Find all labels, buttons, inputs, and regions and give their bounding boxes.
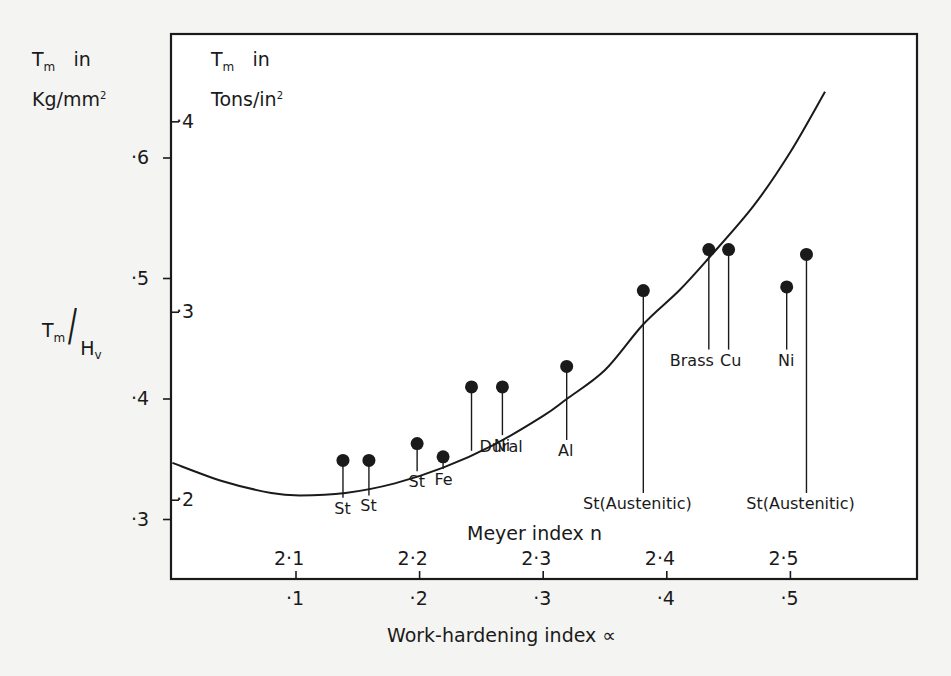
unit-tons: Tons/in [211, 88, 277, 110]
data-point [411, 437, 424, 450]
in-word: in [73, 48, 90, 70]
point-label: St [409, 474, 425, 490]
data-point [496, 380, 509, 393]
ratio-denominator-sub: v [94, 348, 101, 362]
ratio-numerator-sub: m [54, 331, 66, 345]
point-label: St [334, 501, 350, 517]
point-label: Al [558, 443, 573, 459]
y-tick-label-kg: ·4 [131, 389, 149, 408]
data-point [722, 243, 735, 256]
point-label: Ni [494, 438, 510, 454]
ratio-label: Tm/Hv [42, 300, 102, 344]
left-axis-title: Tm in [32, 50, 91, 69]
y-tick-label-tons: ·4 [176, 112, 194, 131]
point-label: St [360, 498, 376, 514]
x-top-label: Meyer index n [467, 524, 602, 543]
ratio-denominator: H [80, 337, 94, 359]
meyer-tick-label: 2·3 [521, 549, 551, 568]
meyer-tick-label: 2·4 [645, 549, 675, 568]
x-tick-label: ·2 [410, 589, 428, 608]
unit-kg: Kg/mm [32, 88, 100, 110]
unit-sup: 2 [277, 90, 283, 101]
x-tick-label: ·1 [286, 589, 304, 608]
tm-subscript: m [223, 60, 235, 74]
tm-symbol: T [32, 48, 44, 70]
point-label: Fe [434, 472, 452, 488]
meyer-tick-label: 2·5 [768, 549, 798, 568]
data-point [800, 248, 813, 261]
x-bottom-label: Work-hardening index ∝ [387, 626, 616, 645]
data-point [637, 284, 650, 297]
unit-sup: 2 [100, 90, 106, 101]
meyer-tick-label: 2·2 [398, 549, 428, 568]
point-label: Ni [778, 353, 794, 369]
in-word: in [252, 48, 269, 70]
data-point [465, 380, 478, 393]
data-point [780, 280, 793, 293]
ratio-slash: / [68, 304, 77, 348]
data-point [560, 360, 573, 373]
y-tick-label-kg: ·5 [131, 269, 149, 288]
x-tick-label: ·5 [780, 589, 798, 608]
y-tick-label-tons: ·3 [176, 302, 194, 321]
tm-subscript: m [44, 60, 56, 74]
x-tick-label: ·4 [657, 589, 675, 608]
data-point [362, 454, 375, 467]
y-tick-label-kg: ·6 [131, 148, 149, 167]
x-tick-label: ·3 [533, 589, 551, 608]
point-label: Brass [670, 353, 714, 369]
ratio-numerator: T [42, 319, 54, 341]
left-axis-unit: Kg/mm2 [32, 90, 106, 109]
inner-axis-unit: Tons/in2 [211, 90, 283, 109]
y-tick-label-tons: ·2 [176, 490, 194, 509]
data-point [437, 450, 450, 463]
point-label: St(Austenitic) [746, 496, 855, 512]
inner-axis-title: Tm in [211, 50, 270, 69]
chart-canvas [0, 0, 951, 676]
data-point [702, 243, 715, 256]
point-label: St(Austenitic) [583, 496, 692, 512]
y-tick-label-kg: ·3 [131, 510, 149, 529]
tm-symbol: T [211, 48, 223, 70]
meyer-tick-label: 2·1 [274, 549, 304, 568]
data-point [336, 454, 349, 467]
point-label: Cu [720, 353, 741, 369]
